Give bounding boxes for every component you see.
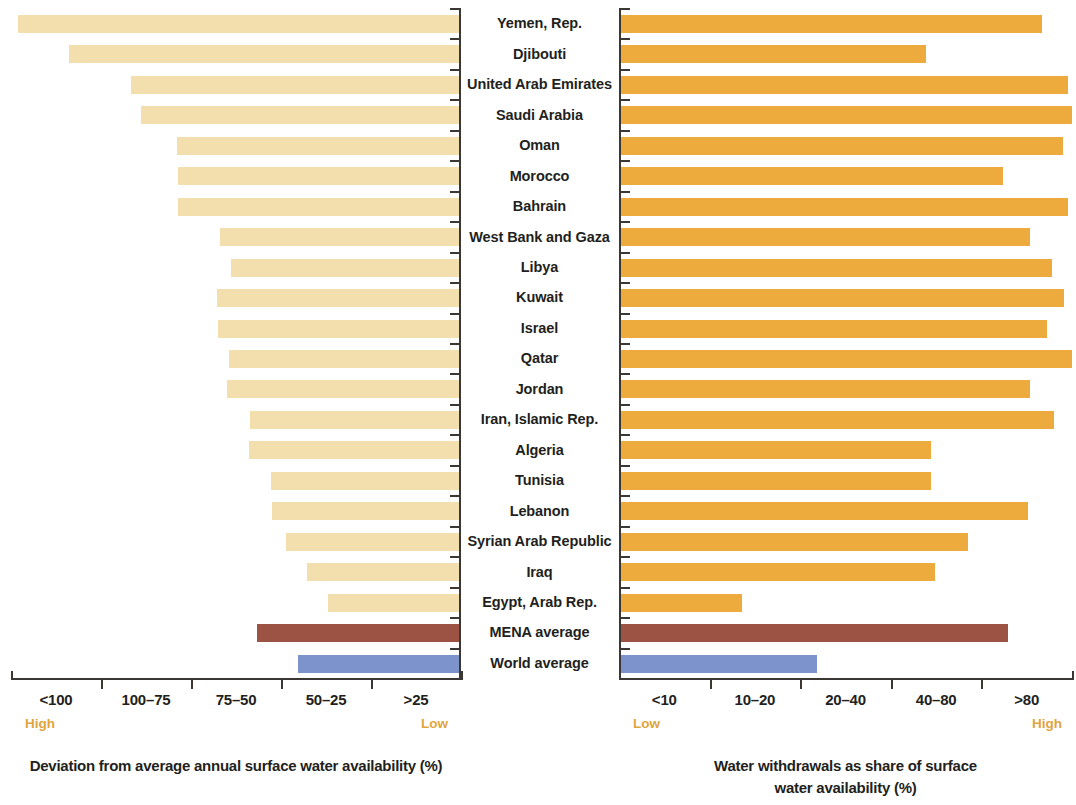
bar xyxy=(620,655,817,673)
bar-row xyxy=(11,465,460,497)
bar-row xyxy=(620,99,1072,131)
axis-tick xyxy=(450,8,459,10)
category-label: Libya xyxy=(462,252,617,284)
bar-row xyxy=(620,191,1072,223)
bar xyxy=(218,320,460,338)
bar xyxy=(286,533,460,551)
right-panel-vertical-axis xyxy=(619,8,621,678)
bar-row xyxy=(11,526,460,558)
axis-tick xyxy=(621,495,630,497)
axis-tick xyxy=(450,373,459,375)
axis-tick-label: >80 xyxy=(1014,691,1039,708)
axis-tick xyxy=(450,526,459,528)
category-label: Syrian Arab Republic xyxy=(462,526,617,558)
bar xyxy=(220,228,460,246)
right-axis-caption: Water withdrawals as share of surface wa… xyxy=(619,755,1072,799)
category-label: Tunisia xyxy=(462,465,617,497)
axis-tick-label: 100–75 xyxy=(122,691,171,708)
bar xyxy=(217,289,460,307)
axis-tick xyxy=(450,495,459,497)
category-label: MENA average xyxy=(462,617,617,649)
left-panel-vertical-axis xyxy=(459,8,461,678)
bar xyxy=(620,411,1054,429)
bar xyxy=(620,533,968,551)
bar xyxy=(620,228,1030,246)
category-label: Bahrain xyxy=(462,191,617,223)
bar xyxy=(271,472,460,490)
axis-tick-label: >25 xyxy=(404,691,429,708)
bar xyxy=(18,15,460,33)
axis-tick xyxy=(101,680,103,689)
bar-row xyxy=(620,282,1072,314)
axis-tick xyxy=(450,160,459,162)
bar-row xyxy=(11,495,460,527)
axis-tick xyxy=(621,313,630,315)
bar-row xyxy=(11,373,460,405)
bar-row xyxy=(620,434,1072,466)
axis-tick xyxy=(621,373,630,375)
axis-tick xyxy=(981,680,983,689)
bar-row xyxy=(620,495,1072,527)
axis-tick xyxy=(450,465,459,467)
bar xyxy=(69,45,460,63)
bar-row xyxy=(620,38,1072,70)
axis-tick-label: 10–20 xyxy=(735,691,776,708)
bar xyxy=(249,441,460,459)
left-bar-rows xyxy=(11,8,460,678)
axis-tick xyxy=(621,404,630,406)
category-label: United Arab Emirates xyxy=(462,69,617,101)
bar xyxy=(178,167,460,185)
right-panel-horizontal-axis xyxy=(619,678,1072,680)
category-label: Israel xyxy=(462,313,617,345)
bar xyxy=(131,76,460,94)
axis-tick-label: <10 xyxy=(652,691,677,708)
bar-row xyxy=(11,130,460,162)
bar xyxy=(177,137,460,155)
axis-tick xyxy=(450,282,459,284)
bar xyxy=(272,502,460,520)
bar xyxy=(231,259,460,277)
category-label: Morocco xyxy=(462,160,617,192)
bar-row xyxy=(11,38,460,70)
category-label: Djibouti xyxy=(462,38,617,70)
bar xyxy=(620,137,1063,155)
bar-row xyxy=(11,587,460,619)
bar xyxy=(620,320,1047,338)
bar-row xyxy=(620,465,1072,497)
axis-tick-label: 40–80 xyxy=(916,691,957,708)
axis-tick xyxy=(450,556,459,558)
category-label: Oman xyxy=(462,130,617,162)
bar-row xyxy=(11,69,460,101)
bar-row xyxy=(11,252,460,284)
axis-tick xyxy=(621,465,630,467)
axis-end-label-start: High xyxy=(25,716,55,731)
axis-tick xyxy=(621,221,630,223)
axis-tick-label: 20–40 xyxy=(825,691,866,708)
bar-row xyxy=(620,556,1072,588)
bar xyxy=(620,472,931,490)
bar-row xyxy=(11,191,460,223)
axis-tick xyxy=(450,191,459,193)
axis-tick xyxy=(450,69,459,71)
axis-tick xyxy=(450,343,459,345)
axis-tick xyxy=(450,99,459,101)
axis-tick-label: 50–25 xyxy=(306,691,347,708)
axis-tick xyxy=(450,587,459,589)
axis-tick xyxy=(450,252,459,254)
category-label: Iran, Islamic Rep. xyxy=(462,404,617,436)
left-panel-horizontal-axis xyxy=(11,678,461,680)
bar xyxy=(227,380,460,398)
bar xyxy=(620,15,1042,33)
bar xyxy=(620,45,926,63)
axis-tick xyxy=(450,434,459,436)
axis-tick xyxy=(621,38,630,40)
axis-tick xyxy=(371,680,373,689)
bar-row xyxy=(620,648,1072,680)
bar xyxy=(257,624,460,642)
axis-tick xyxy=(621,526,630,528)
bar-row xyxy=(620,343,1072,375)
axis-tick xyxy=(621,130,630,132)
bar-row xyxy=(620,587,1072,619)
axis-tick xyxy=(621,617,630,619)
axis-end-label-end: High xyxy=(1032,716,1062,731)
